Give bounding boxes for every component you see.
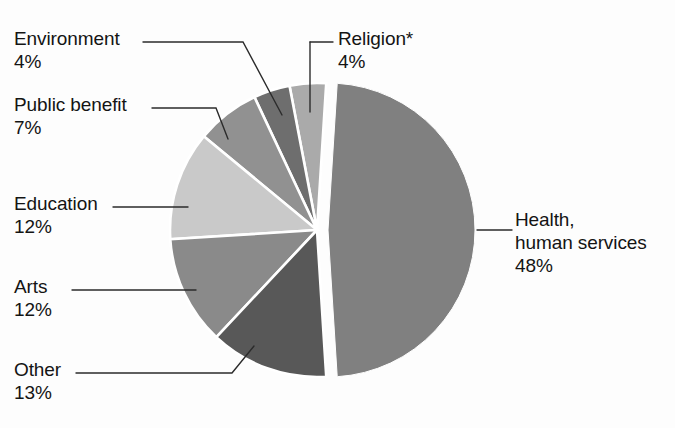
- slice-label-health: Health, human services 48%: [515, 208, 647, 277]
- pie-slices: [170, 83, 475, 377]
- slice-label-arts: Arts 12%: [14, 275, 52, 321]
- slice-label-religion-name: Religion*: [338, 27, 413, 50]
- slice-label-education-name: Education: [14, 192, 98, 215]
- slice-label-health-percent: 48%: [515, 254, 647, 277]
- pie-slice-health[interactable]: [328, 83, 475, 376]
- slice-label-environment-name: Environment: [14, 27, 120, 50]
- slice-label-education: Education 12%: [14, 192, 98, 238]
- slice-label-arts-name: Arts: [14, 275, 52, 298]
- slice-label-environment-percent: 4%: [14, 50, 120, 73]
- slice-label-other-name: Other: [14, 358, 61, 381]
- slice-label-environment: Environment 4%: [14, 27, 120, 73]
- slice-label-arts-percent: 12%: [14, 298, 52, 321]
- slice-label-religion-percent: 4%: [338, 50, 413, 73]
- slice-label-health-line1: Health,: [515, 208, 647, 231]
- slice-label-public-benefit: Public benefit 7%: [14, 93, 127, 139]
- slice-label-public-benefit-percent: 7%: [14, 116, 127, 139]
- pie-chart-figure: Environment 4% Public benefit 7% Educati…: [0, 0, 675, 428]
- leader-line-other: [76, 346, 254, 373]
- slice-label-public-benefit-name: Public benefit: [14, 93, 127, 116]
- slice-label-education-percent: 12%: [14, 215, 98, 238]
- slice-label-health-line2: human services: [515, 231, 647, 254]
- slice-label-religion: Religion* 4%: [338, 27, 413, 73]
- slice-label-other: Other 13%: [14, 358, 61, 404]
- slice-label-other-percent: 13%: [14, 381, 61, 404]
